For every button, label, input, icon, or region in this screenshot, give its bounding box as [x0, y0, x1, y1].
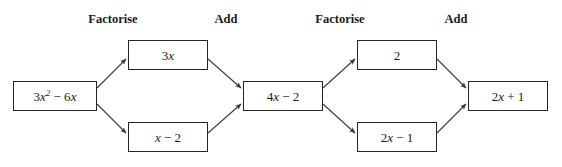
- box-3x-squared-minus-6x: 3x2 − 6x: [13, 81, 97, 111]
- box-2x-plus-1: 2x + 1: [468, 81, 548, 111]
- edge-x-minus-2-to-4x: [208, 104, 241, 133]
- box-2x-minus-1: 2x − 1: [357, 122, 437, 152]
- box-label: 2x − 1: [381, 130, 414, 145]
- box-2: 2: [357, 40, 437, 70]
- edge-4x-to-2x-minus-1: [323, 104, 355, 133]
- edge-2-to-output: [437, 59, 466, 88]
- box-x-minus-2: x − 2: [128, 122, 208, 152]
- box-3x: 3x: [128, 40, 208, 70]
- box-label: 2: [394, 48, 401, 63]
- edge-input-to-x-minus-2: [97, 104, 126, 133]
- edge-3x-to-4x-minus-2: [208, 59, 241, 88]
- box-4x-minus-2: 4x − 2: [243, 81, 323, 111]
- stage-label-add-2: Add: [445, 12, 468, 26]
- diagram-canvas: Factorise Add Factorise Add 3x2 − 6x 3x …: [0, 0, 562, 167]
- edge-4x-to-2: [323, 59, 355, 88]
- box-label: 3x2 − 6x: [34, 89, 77, 104]
- box-label: 2x + 1: [492, 89, 525, 104]
- stage-label-add-1: Add: [215, 12, 238, 26]
- stage-label-factorise-2: Factorise: [315, 12, 364, 26]
- box-label: 4x − 2: [267, 89, 300, 104]
- stage-label-factorise-1: Factorise: [88, 12, 137, 26]
- edge-2x-minus-1-to-output: [437, 104, 466, 133]
- edge-input-to-3x: [97, 59, 126, 88]
- box-label: x − 2: [155, 130, 181, 145]
- box-label: 3x: [162, 48, 174, 63]
